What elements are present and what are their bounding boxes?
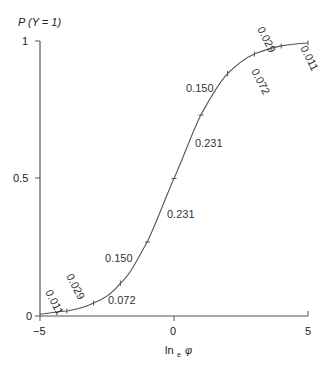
x-axis-title-phi: φ xyxy=(185,344,192,356)
x-tick-label-m5: −5 xyxy=(33,325,46,337)
y-tick-label-0: 0 xyxy=(26,310,32,322)
x-tick-label-5: 5 xyxy=(305,325,311,337)
increment-label-6: 0.231 xyxy=(195,137,223,149)
x-axis-title-ln: ln xyxy=(165,344,174,356)
increment-label-2: 0.029 xyxy=(64,271,87,301)
increment-label-1: 0.011 xyxy=(43,287,66,316)
y-tick-label-1: 1 xyxy=(22,35,28,47)
increment-label-7: 0.150 xyxy=(186,82,214,94)
y-axis-title: P (Y = 1) xyxy=(18,16,61,28)
increment-label-4: 0.150 xyxy=(105,252,133,264)
x-tick-label-0: 0 xyxy=(170,325,176,337)
y-tick-label-05: 0.5 xyxy=(13,172,28,184)
increment-label-9: 0.029 xyxy=(255,24,278,54)
logistic-chart: 1 0.5 0 −5 0 5 P (Y = 1) ln e φ 0.011 0.… xyxy=(0,0,332,373)
increment-label-8: 0.072 xyxy=(249,66,272,96)
increment-label-3: 0.072 xyxy=(108,294,136,306)
increment-label-5: 0.231 xyxy=(167,208,195,220)
increment-label-10: 0.011 xyxy=(298,43,321,72)
x-axis-title-sub: e xyxy=(177,351,181,358)
